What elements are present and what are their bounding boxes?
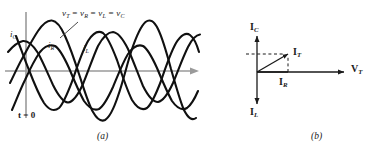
i-r-phasor-label: IR: [279, 77, 287, 89]
panel-a-waveforms: vT = vR = vL = vC iC iR iL t = 0 (a): [0, 0, 205, 152]
i-l-phasor-label: IL: [250, 107, 258, 119]
panel-b-phasor-diagram: IC IT IR IL VT (b): [205, 0, 377, 152]
i-c-label: iC: [10, 30, 17, 40]
time-axis-arrowhead: [190, 67, 199, 74]
v-t-phasor-label: VT: [351, 64, 362, 76]
i-c-phasor-label: IC: [250, 22, 258, 34]
waveform-plot: [0, 0, 205, 152]
panel-b-caption: (b): [311, 131, 322, 141]
i-t-phasor-label: IT: [293, 47, 301, 59]
phasor-plot: [205, 0, 377, 152]
voltage-equality-label: vT = vR = vL = vC: [62, 9, 125, 19]
i-l-label: iL: [83, 44, 89, 54]
panel-a-caption: (a): [97, 131, 108, 141]
i-t-phasor-arrow: [257, 54, 288, 72]
figure-container: vT = vR = vL = vC iC iR iL t = 0 (a): [0, 0, 377, 152]
i-r-label: iR: [48, 41, 54, 51]
t-zero-label: t = 0: [18, 111, 35, 120]
